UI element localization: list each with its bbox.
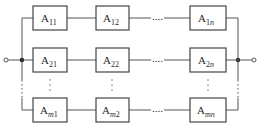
block-a2n: A2n: [190, 48, 226, 72]
svg-text:....: ....: [152, 52, 163, 64]
left-bus: [22, 18, 33, 110]
right-bus: [226, 18, 238, 110]
block-am1: Am1: [33, 98, 67, 122]
block-am2: Am2: [96, 98, 129, 122]
parallel-series-diagram: .... .... .... A11 A12 A1n A21 A22 A2n A…: [0, 0, 260, 135]
svg-text:....: ....: [152, 10, 163, 22]
block-a11: A11: [33, 6, 67, 30]
output-terminal: [236, 58, 256, 62]
input-terminal: [4, 58, 24, 62]
horizontal-ellipsis: .... .... ....: [152, 10, 163, 114]
vertical-ellipsis: [49, 79, 209, 91]
block-a12: A12: [96, 6, 129, 30]
svg-text:....: ....: [152, 102, 163, 114]
block-amn: Amn: [190, 98, 226, 122]
block-a22: A22: [96, 48, 129, 72]
block-a1n: A1n: [190, 6, 226, 30]
block-a21: A21: [33, 48, 67, 72]
